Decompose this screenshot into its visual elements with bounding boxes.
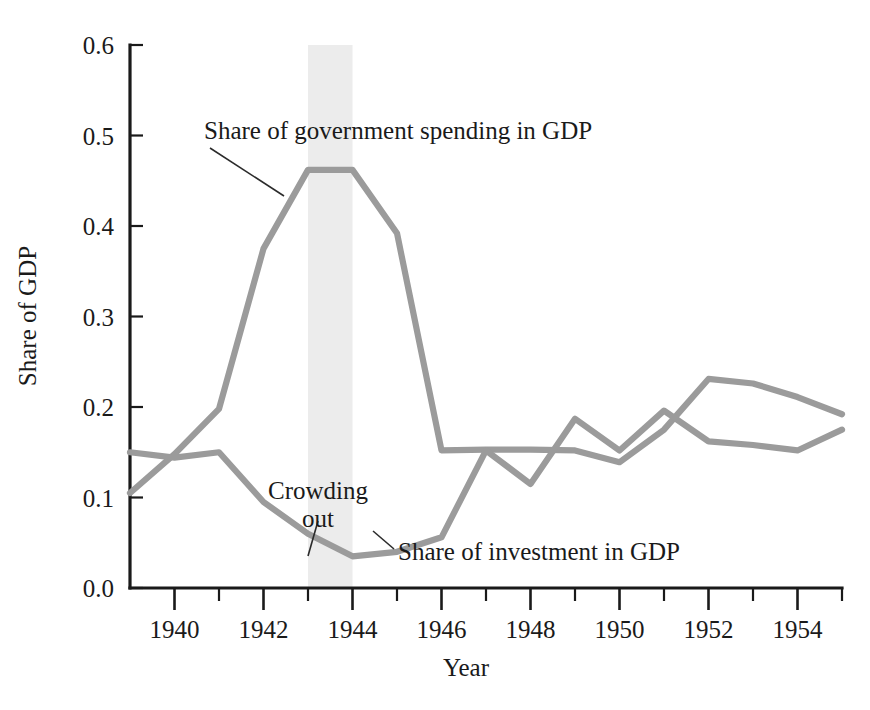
- x-tick-label: 1946: [417, 616, 467, 643]
- y-tick-label: 0.2: [83, 394, 114, 421]
- x-tick-label: 1942: [239, 616, 289, 643]
- y-axis-ticks: [130, 45, 143, 588]
- line-investment: [130, 411, 842, 557]
- y-tick-label: 0.1: [83, 485, 114, 512]
- y-tick-label: 0.4: [83, 213, 115, 240]
- y-axis-tick-labels: 0.00.10.20.30.40.50.6: [83, 32, 115, 602]
- crowding-out-annotation-line1: Crowding: [268, 477, 369, 504]
- x-axis-tick-labels: 19401942194419461948195019521954: [150, 616, 824, 643]
- y-tick-label: 0.0: [83, 575, 114, 602]
- x-tick-label: 1950: [595, 616, 645, 643]
- x-tick-label: 1944: [328, 616, 379, 643]
- y-tick-label: 0.6: [83, 32, 114, 59]
- y-tick-label: 0.5: [83, 123, 114, 150]
- x-tick-label: 1940: [150, 616, 200, 643]
- crowding-out-annotation-line2: out: [302, 505, 334, 532]
- y-tick-label: 0.3: [83, 304, 114, 331]
- x-axis-ticks: [175, 588, 843, 610]
- investment-annotation: Share of investment in GDP: [398, 538, 680, 565]
- x-tick-label: 1954: [773, 616, 824, 643]
- x-tick-label: 1952: [684, 616, 734, 643]
- chart-figure: 0.00.10.20.30.40.50.6 194019421944194619…: [0, 0, 870, 710]
- inv-label-leader-line: [373, 531, 394, 549]
- gov-label-leader-line: [210, 148, 284, 196]
- y-axis-title: Share of GDP: [14, 246, 41, 386]
- gov-spending-annotation: Share of government spending in GDP: [204, 117, 592, 144]
- chart-canvas: 0.00.10.20.30.40.50.6 194019421944194619…: [0, 0, 870, 710]
- x-axis-title: Year: [443, 654, 490, 681]
- x-tick-label: 1948: [506, 616, 556, 643]
